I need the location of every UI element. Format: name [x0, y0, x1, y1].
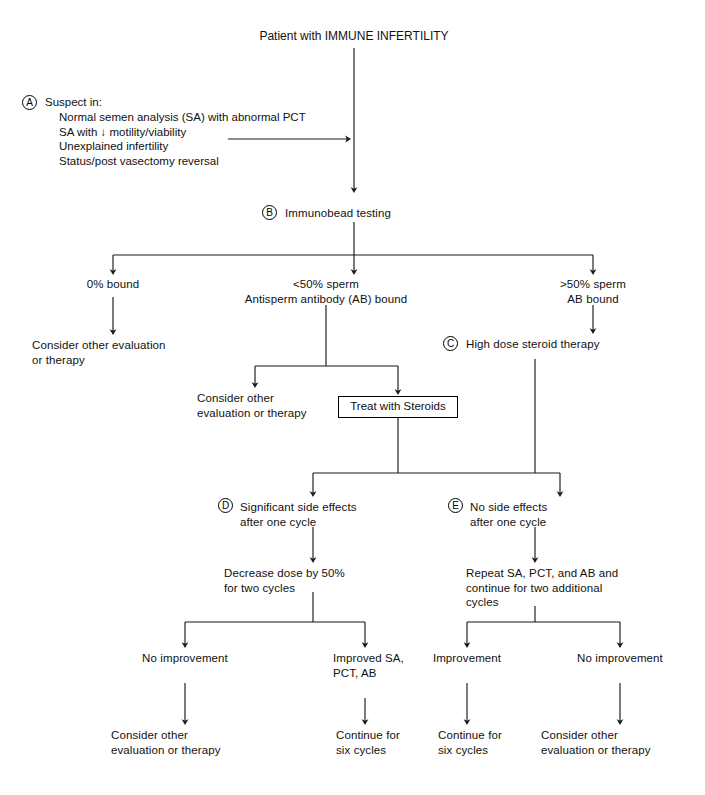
node-consider-left-line2: or therapy — [32, 353, 85, 368]
step-badge-e: E — [448, 498, 463, 513]
node-low-percent-line1: <50% sperm — [293, 277, 359, 292]
step-badge-b: B — [262, 205, 277, 220]
node-no-side-effects-line1: No side effects — [470, 500, 547, 515]
node-consider-left-line1: Consider other evaluation — [32, 338, 166, 353]
suspect-item-2: SA with ↓ motility/viability — [59, 125, 186, 140]
node-improved-line1: Improved SA, — [333, 651, 404, 666]
node-low-percent-line2: Antisperm antibody (AB) bound — [245, 292, 408, 307]
suspect-heading: Suspect in: — [45, 95, 102, 110]
suspect-item-4: Status/post vasectomy reversal — [59, 154, 219, 169]
node-final-continue-left-line2: six cycles — [336, 743, 386, 758]
flowchart-canvas: Patient with IMMUNE INFERTILITY A Suspec… — [0, 0, 705, 795]
suspect-item-1: Normal semen analysis (SA) with abnormal… — [59, 110, 306, 125]
node-consider-mid-line2: evaluation or therapy — [197, 406, 307, 421]
node-zero-percent-bound: 0% bound — [87, 277, 140, 292]
node-final-continue-right-line2: six cycles — [438, 743, 488, 758]
node-no-side-effects-line2: after one cycle — [470, 515, 546, 530]
node-decrease-dose-line2: for two cycles — [224, 581, 295, 596]
node-high-dose-steroid-therapy: High dose steroid therapy — [466, 337, 600, 352]
step-badge-d: D — [218, 498, 233, 513]
node-no-improvement-left: No improvement — [142, 651, 228, 666]
node-repeat-line3: cycles — [466, 595, 499, 610]
node-decrease-dose-line1: Decrease dose by 50% — [224, 566, 345, 581]
node-final-continue-left-line1: Continue for — [336, 728, 400, 743]
node-improvement-right: Improvement — [433, 651, 501, 666]
node-final-continue-right-line1: Continue for — [438, 728, 502, 743]
node-high-percent-line1: >50% sperm — [560, 277, 626, 292]
node-immunobead-testing: Immunobead testing — [285, 206, 391, 221]
node-final-consider-right-line1: Consider other — [541, 728, 618, 743]
step-badge-c: C — [443, 336, 458, 351]
step-badge-a: A — [22, 95, 37, 110]
node-treat-with-steroids: Treat with Steroids — [338, 396, 458, 418]
suspect-item-3: Unexplained infertility — [59, 139, 168, 154]
node-repeat-line2: continue for two additional — [466, 581, 602, 596]
node-significant-side-effects-line1: Significant side effects — [240, 500, 357, 515]
node-final-consider-right-line2: evaluation or therapy — [541, 743, 651, 758]
node-repeat-line1: Repeat SA, PCT, and AB and — [466, 566, 618, 581]
node-significant-side-effects-line2: after one cycle — [240, 515, 316, 530]
node-no-improvement-right: No improvement — [577, 651, 663, 666]
node-final-consider-left-line1: Consider other — [111, 728, 188, 743]
node-final-consider-left-line2: evaluation or therapy — [111, 743, 221, 758]
node-consider-mid-line1: Consider other — [197, 391, 274, 406]
node-high-percent-line2: AB bound — [567, 292, 618, 307]
node-improved-line2: PCT, AB — [333, 666, 377, 681]
node-root-title: Patient with IMMUNE INFERTILITY — [259, 29, 448, 43]
